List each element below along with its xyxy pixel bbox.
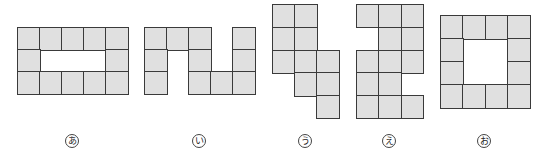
- grid-square: [356, 50, 380, 74]
- grid-square: [507, 38, 531, 63]
- grid-square: [440, 15, 464, 40]
- grid-square: [401, 4, 425, 28]
- grid-square: [232, 27, 256, 51]
- grid-square: [507, 15, 531, 40]
- grid-square: [17, 27, 41, 51]
- grid-square: [39, 71, 63, 95]
- grid-square: [378, 95, 402, 119]
- grid-square: [272, 50, 296, 74]
- grid-square: [378, 27, 402, 51]
- grid-square: [356, 72, 380, 96]
- grid-square: [61, 71, 85, 95]
- grid-square: [232, 71, 256, 95]
- grid-square: [378, 4, 402, 28]
- grid-square: [83, 71, 107, 95]
- grid-square: [294, 50, 318, 74]
- grid-square: [356, 95, 380, 119]
- grid-square: [316, 72, 340, 96]
- figure-i-label: い: [192, 134, 206, 148]
- grid-square: [61, 27, 85, 51]
- grid-square: [144, 27, 168, 51]
- grid-square: [440, 84, 464, 109]
- grid-square: [401, 27, 425, 51]
- grid-square: [83, 27, 107, 51]
- grid-square: [485, 84, 509, 109]
- grid-square: [294, 27, 318, 51]
- grid-square: [401, 95, 425, 119]
- grid-square: [485, 15, 509, 40]
- figure-e-label: え: [382, 134, 396, 148]
- grid-square: [105, 71, 129, 95]
- grid-square: [294, 4, 318, 28]
- grid-square: [105, 27, 129, 51]
- grid-square: [440, 38, 464, 63]
- grid-square: [272, 4, 296, 28]
- grid-square: [188, 49, 212, 73]
- grid-square: [17, 49, 41, 73]
- grid-square: [232, 49, 256, 73]
- grid-square: [462, 15, 486, 40]
- grid-square: [210, 71, 234, 95]
- grid-square: [378, 72, 402, 96]
- grid-square: [507, 61, 531, 86]
- grid-square: [17, 71, 41, 95]
- grid-square: [166, 27, 190, 51]
- grid-square: [316, 50, 340, 74]
- grid-square: [188, 27, 212, 51]
- grid-square: [316, 95, 340, 119]
- grid-square: [356, 4, 380, 28]
- grid-square: [144, 71, 168, 95]
- grid-square: [188, 71, 212, 95]
- grid-square: [144, 49, 168, 73]
- figure-u-label: う: [298, 134, 312, 148]
- grid-square: [440, 61, 464, 86]
- grid-square: [507, 84, 531, 109]
- grid-square: [462, 84, 486, 109]
- grid-square: [105, 49, 129, 73]
- grid-square: [272, 27, 296, 51]
- figure-o-label: お: [477, 134, 491, 148]
- grid-square: [401, 50, 425, 74]
- figure-a-label: あ: [65, 134, 79, 148]
- grid-square: [378, 50, 402, 74]
- grid-square: [294, 72, 318, 96]
- grid-square: [39, 27, 63, 51]
